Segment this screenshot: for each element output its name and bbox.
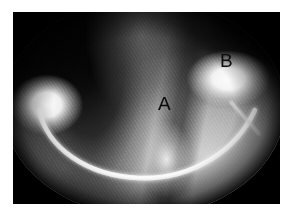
vignette-overlay: [13, 12, 280, 204]
annotation-label-b: B: [220, 52, 233, 71]
oval-field-of-view: [13, 12, 280, 204]
image-frame: A B: [13, 12, 280, 204]
annotation-label-a: A: [158, 95, 171, 114]
figure-root: A B: [0, 0, 293, 215]
